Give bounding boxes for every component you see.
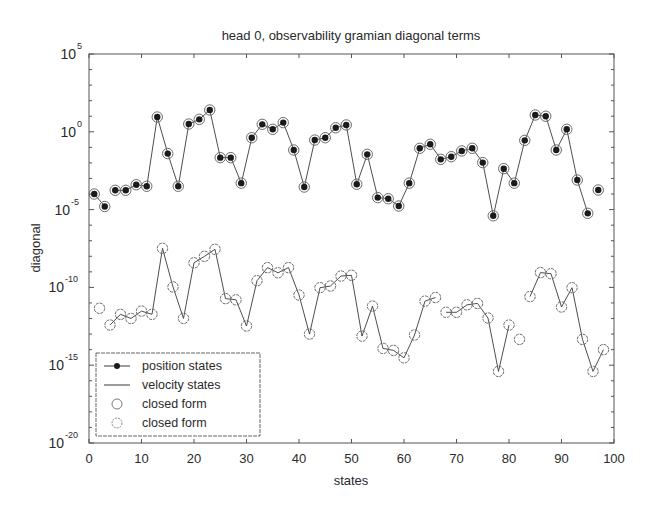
y-tick-label: 100 [60, 119, 82, 140]
chart-title: head 0, observability gramian diagonal t… [222, 28, 481, 43]
svg-text:-10: -10 [65, 274, 78, 284]
position-dot-marker [154, 114, 160, 120]
position-dot-marker [417, 145, 423, 151]
y-tick-label: 105 [60, 41, 82, 62]
y-tick-label: 10-5 [54, 197, 79, 218]
position-dot-marker [385, 196, 391, 202]
position-dot-marker [186, 121, 192, 127]
x-tick-label: 10 [134, 451, 148, 466]
y-tick-label: 10-15 [48, 352, 78, 373]
position-dot-marker [343, 122, 349, 128]
svg-text:10: 10 [54, 202, 70, 218]
position-dot-marker [123, 187, 129, 193]
position-dot-marker [375, 194, 381, 200]
x-tick-label: 70 [449, 451, 463, 466]
position-dot-marker [301, 184, 307, 190]
position-dot-marker [112, 187, 118, 193]
position-dot-marker [322, 135, 328, 141]
x-tick-label: 80 [502, 451, 516, 466]
x-tick-label: 50 [344, 451, 358, 466]
position-dot-marker [91, 191, 97, 197]
legend-label-velocity: velocity states [142, 378, 221, 392]
legend-label-position: position states [142, 359, 222, 373]
position-dot-marker [133, 182, 139, 188]
x-axis-label: states [334, 473, 369, 488]
chart-figure: head 0, observability gramian diagonal t… [0, 0, 658, 508]
svg-text:-20: -20 [65, 430, 78, 440]
svg-text:-15: -15 [65, 352, 78, 362]
position-dot-marker [175, 183, 181, 189]
svg-text:10: 10 [60, 46, 76, 62]
position-dot-marker [217, 154, 223, 160]
position-dot-marker [102, 203, 108, 209]
position-dot-marker [228, 154, 234, 160]
position-dot-marker [333, 125, 339, 131]
position-dot-marker [364, 151, 370, 157]
legend-label-closed-form-2: closed form [142, 416, 207, 430]
position-dot-marker [511, 180, 517, 186]
x-tick-label: 100 [603, 451, 625, 466]
y-tick-label: 10-10 [48, 274, 78, 295]
position-dot-marker [270, 126, 276, 132]
position-dot-marker [448, 153, 454, 159]
position-dot-marker [249, 135, 255, 141]
position-dot-marker [438, 156, 444, 162]
position-dot-marker [543, 113, 549, 119]
position-dot-marker [291, 147, 297, 153]
svg-text:10: 10 [48, 279, 64, 295]
position-dot-marker [469, 145, 475, 151]
y-axis-label: diagonal [28, 223, 43, 272]
svg-text:10: 10 [60, 124, 76, 140]
position-dot-marker [354, 181, 360, 187]
position-dot-marker [564, 126, 570, 132]
position-dot-marker [585, 210, 591, 216]
position-dot-marker [406, 180, 412, 186]
svg-text:0: 0 [77, 119, 82, 129]
legend: position states velocity states closed f… [96, 353, 260, 436]
position-dot-marker [259, 121, 265, 127]
y-tick-label: 10-20 [48, 430, 78, 451]
position-dot-marker [207, 107, 213, 113]
position-dot-marker [196, 116, 202, 122]
position-dot-marker [522, 137, 528, 143]
legend-label-closed-form-1: closed form [142, 397, 207, 411]
position-dot-marker [280, 119, 286, 125]
position-dot-marker [553, 147, 559, 153]
x-tick-label: 0 [85, 451, 92, 466]
position-dot-marker [396, 203, 402, 209]
position-dot-marker [480, 159, 486, 165]
position-dot-marker [490, 213, 496, 219]
svg-text:10: 10 [48, 357, 64, 373]
position-dot-marker [595, 187, 601, 193]
position-dot-marker [459, 148, 465, 154]
position-dot-marker [501, 165, 507, 171]
svg-text:5: 5 [77, 41, 82, 51]
x-tick-label: 20 [187, 451, 201, 466]
position-dot-marker [574, 177, 580, 183]
position-dot-marker [427, 141, 433, 147]
position-dot-marker [312, 137, 318, 143]
x-tick-label: 90 [554, 451, 568, 466]
position-dot-marker [238, 180, 244, 186]
legend-dot-icon [114, 363, 120, 369]
position-dot-marker [144, 183, 150, 189]
position-dot-marker [165, 150, 171, 156]
position-dot-marker [532, 112, 538, 118]
svg-text:10: 10 [48, 435, 64, 451]
x-tick-label: 40 [292, 451, 306, 466]
svg-text:-5: -5 [71, 197, 79, 207]
x-tick-label: 30 [239, 451, 253, 466]
x-tick-label: 60 [397, 451, 411, 466]
